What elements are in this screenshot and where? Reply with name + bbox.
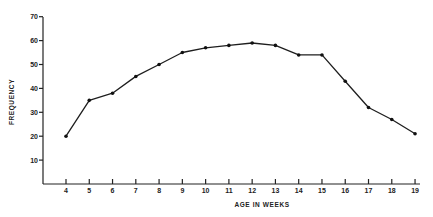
y-axis: 10203040506070 FREQUENCY	[8, 13, 43, 184]
data-point	[181, 51, 185, 55]
data-point	[297, 53, 301, 57]
line-chart: 10203040506070 FREQUENCY 456789101112131…	[0, 0, 433, 217]
data-point	[227, 44, 231, 48]
data-point	[250, 41, 254, 45]
data-point	[413, 132, 417, 136]
x-tick-label: 16	[341, 187, 349, 194]
data-point	[390, 118, 394, 122]
x-tick-label: 10	[202, 187, 210, 194]
x-tick-label: 12	[248, 187, 256, 194]
y-ticks: 10203040506070	[30, 13, 43, 163]
x-tick-label: 9	[180, 187, 184, 194]
y-tick-label: 10	[30, 157, 38, 164]
plot-area	[64, 41, 417, 138]
x-tick-label: 13	[272, 187, 280, 194]
x-tick-label: 15	[318, 187, 326, 194]
data-point	[320, 53, 324, 57]
data-point	[111, 91, 115, 95]
data-point	[204, 46, 208, 50]
x-tick-label: 11	[225, 187, 233, 194]
x-tick-label: 18	[388, 187, 396, 194]
data-point	[343, 79, 347, 83]
x-tick-label: 14	[295, 187, 303, 194]
data-point	[367, 106, 371, 110]
y-axis-title: FREQUENCY	[8, 79, 16, 125]
data-point	[64, 134, 68, 138]
x-axis-title: AGE IN WEEKS	[234, 201, 289, 208]
data-point	[87, 99, 91, 103]
y-tick-label: 20	[30, 133, 38, 140]
x-tick-label: 17	[365, 187, 373, 194]
y-tick-label: 30	[30, 109, 38, 116]
x-ticks: 45678910111213141516171819	[64, 179, 419, 194]
data-point	[157, 63, 161, 67]
x-tick-label: 19	[411, 187, 419, 194]
y-tick-label: 40	[30, 85, 38, 92]
frequency-line	[66, 43, 415, 136]
data-point	[274, 44, 278, 48]
x-axis: 45678910111213141516171819 AGE IN WEEKS	[43, 179, 420, 208]
x-tick-label: 8	[157, 187, 161, 194]
y-tick-label: 60	[30, 37, 38, 44]
x-tick-label: 7	[134, 187, 138, 194]
y-tick-label: 50	[30, 61, 38, 68]
x-tick-label: 6	[111, 187, 115, 194]
data-point	[134, 75, 138, 79]
y-tick-label: 70	[30, 13, 38, 20]
x-tick-label: 4	[64, 187, 68, 194]
x-tick-label: 5	[87, 187, 91, 194]
